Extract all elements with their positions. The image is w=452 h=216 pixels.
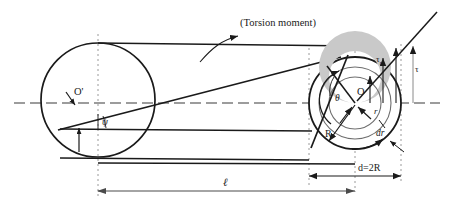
shaft-bottom-line bbox=[98, 163, 355, 164]
torsion-diagram-canvas: (Torsion moment) O' ψ O θ r R dr τr τ ℓ … bbox=[0, 0, 452, 216]
torsion-diagram: (Torsion moment) O' ψ O θ r R dr τr τ ℓ … bbox=[0, 0, 452, 216]
torsion-moment-note: (Torsion moment) bbox=[240, 17, 316, 29]
polar-angle-label: θ bbox=[335, 93, 340, 103]
inner-radius-label: r bbox=[374, 106, 378, 116]
diameter-label: d=2R bbox=[358, 162, 381, 173]
right-center-label: O bbox=[357, 86, 365, 97]
left-center-label: O' bbox=[74, 86, 84, 97]
shear-stress-max-label: τ bbox=[415, 64, 419, 74]
outer-radius-label: R bbox=[325, 128, 332, 139]
ring-thickness-label: dr bbox=[376, 128, 385, 138]
length-label: ℓ bbox=[223, 176, 228, 188]
